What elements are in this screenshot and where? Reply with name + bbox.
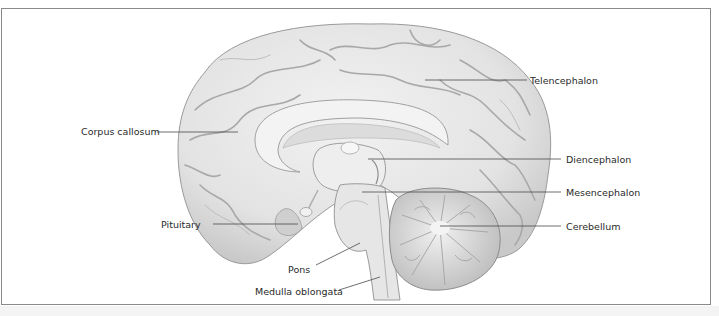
label-telencephalon: Telencephalon bbox=[530, 75, 598, 86]
label-medulla-oblongata: Medulla oblongata bbox=[255, 286, 343, 297]
label-diencephalon: Diencephalon bbox=[566, 154, 631, 165]
label-corpus-callosum: Corpus callosum bbox=[81, 126, 160, 137]
label-pons: Pons bbox=[288, 264, 310, 275]
leader-pons bbox=[316, 243, 360, 265]
label-pituitary: Pituitary bbox=[161, 219, 201, 230]
label-mesencephalon: Mesencephalon bbox=[566, 187, 640, 198]
label-cerebellum: Cerebellum bbox=[566, 221, 620, 232]
cerebellum bbox=[389, 188, 500, 290]
